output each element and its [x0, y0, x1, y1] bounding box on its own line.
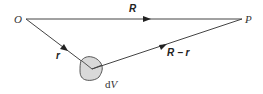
- label-volume-element-dV: dV: [105, 78, 119, 90]
- vector-R-arrowhead: [143, 16, 151, 22]
- label-vector-R: R: [129, 3, 137, 14]
- label-dV-V: V: [111, 78, 119, 90]
- label-vector-r: r: [56, 50, 61, 61]
- vector-diagram: O P R r R − r dV: [0, 0, 263, 94]
- vector-R-minus-r-arrowhead: [159, 44, 167, 50]
- label-vector-R-minus-r: R − r: [167, 47, 191, 58]
- label-point-P: P: [244, 13, 252, 25]
- label-origin-O: O: [14, 13, 22, 25]
